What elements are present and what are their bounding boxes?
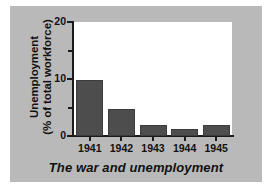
bar-1941: [76, 80, 103, 136]
chart-figure: Unemployment (% of total workforce) 0102…: [0, 0, 273, 194]
x-tick-label-1942: 1942: [104, 142, 138, 154]
y-axis-title-line1: Unemployment: [28, 36, 40, 118]
y-tick-label-10: 10: [42, 73, 66, 83]
y-tick-label-20: 20: [42, 16, 66, 26]
y-tick-0: [67, 135, 72, 137]
x-tick-label-1941: 1941: [73, 142, 107, 154]
bar-1942: [108, 109, 135, 136]
bar-1945: [203, 125, 230, 136]
x-tick-1945: [215, 137, 217, 141]
y-tick-minor-5: [68, 107, 72, 109]
x-tick-1943: [152, 137, 154, 141]
y-tick-20: [67, 21, 72, 23]
y-axis-tick-labels: 01020: [40, 0, 66, 160]
x-tick-1941: [89, 137, 91, 141]
chart-title: The war and unemployment: [10, 160, 262, 175]
x-tick-1944: [184, 137, 186, 141]
x-tick-label-1945: 1945: [199, 142, 233, 154]
y-tick-10: [67, 78, 72, 80]
x-axis-tick-labels: 19411942194319441945: [72, 142, 236, 156]
x-tick-1942: [120, 137, 122, 141]
bar-1943: [140, 125, 167, 136]
y-tick-minor-15: [68, 50, 72, 52]
y-axis-line: [72, 21, 74, 137]
y-tick-label-0: 0: [42, 130, 66, 140]
bar-1944: [171, 129, 198, 136]
x-tick-label-1944: 1944: [168, 142, 202, 154]
x-tick-label-1943: 1943: [136, 142, 170, 154]
